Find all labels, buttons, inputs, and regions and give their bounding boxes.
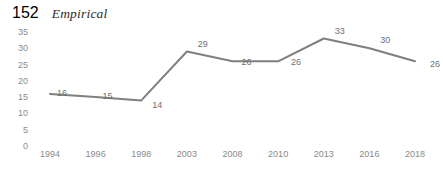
data-point-label: 30: [380, 36, 390, 45]
data-point-label: 14: [152, 101, 162, 110]
x-axis-tick-label: 2016: [359, 150, 379, 159]
x-axis-tick-label: 1998: [131, 150, 151, 159]
data-point-label: 26: [430, 60, 440, 69]
line-chart: 05101520253035 161514292626333026 199419…: [0, 24, 443, 186]
x-axis-tick-label: 1994: [40, 150, 60, 159]
x-axis-tick-label: 2018: [405, 150, 425, 159]
data-point-label: 26: [291, 58, 301, 67]
x-axis-tick-label: 1996: [86, 150, 106, 159]
x-axis-tick-label: 2010: [268, 150, 288, 159]
data-point-label: 15: [103, 92, 113, 101]
page-number: 152: [12, 4, 39, 22]
x-axis-tick-label: 2003: [177, 150, 197, 159]
data-point-label: 16: [57, 88, 67, 97]
data-point-label: 33: [335, 26, 345, 35]
x-axis-tick-label: 2008: [222, 150, 242, 159]
running-head: 152 Empirical: [12, 4, 108, 22]
data-point-label: 26: [241, 58, 251, 67]
x-axis: 199419961998200320082010201320162018: [0, 150, 443, 180]
x-axis-tick-label: 2013: [314, 150, 334, 159]
running-head-title: Empirical: [52, 6, 108, 22]
data-point-label: 29: [198, 39, 208, 48]
